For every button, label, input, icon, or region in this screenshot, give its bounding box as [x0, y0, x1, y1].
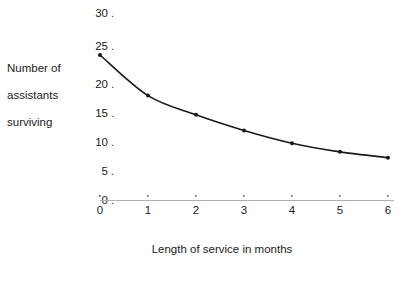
- data-point-5: [338, 150, 342, 154]
- chart-figure: Number of assistants surviving 30 . 25 .…: [0, 0, 410, 291]
- data-markers: [98, 53, 390, 160]
- data-line: [100, 55, 388, 158]
- data-point-3: [242, 128, 246, 132]
- data-point-0: [98, 53, 102, 57]
- data-point-4: [290, 141, 294, 145]
- data-point-6: [386, 156, 390, 160]
- x-axis-label-text: Length of service in months: [118, 243, 293, 255]
- x-axis-label: Length of service in months: [0, 243, 410, 255]
- data-point-2: [194, 113, 198, 117]
- x-tick-marks: [99, 195, 389, 197]
- data-point-1: [146, 94, 150, 98]
